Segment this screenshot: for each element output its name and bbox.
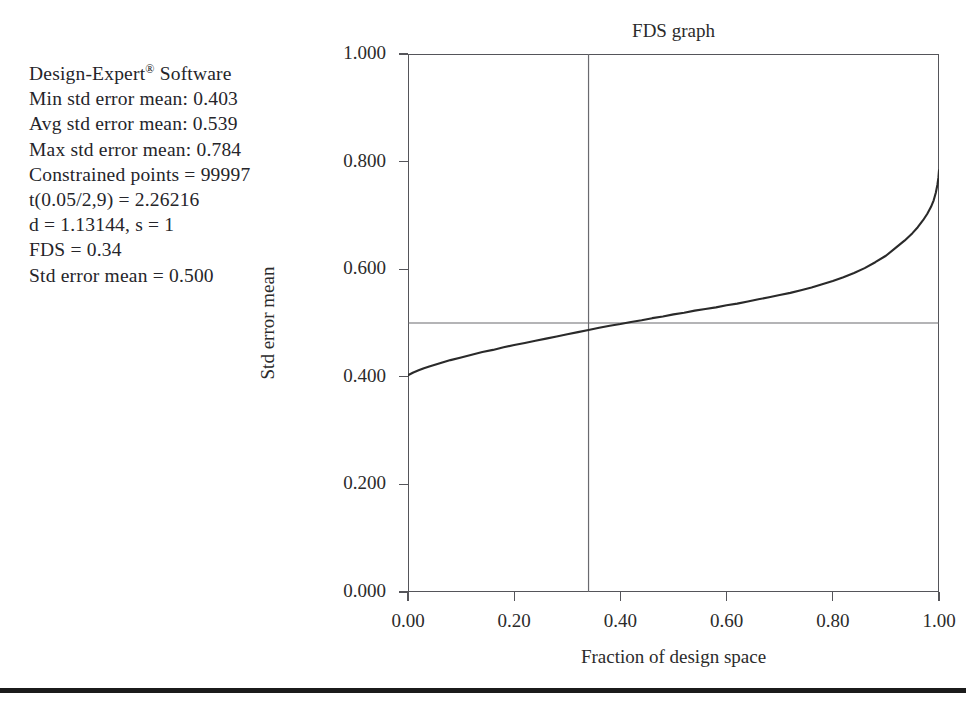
- x-tick-mark-1: [514, 592, 515, 601]
- x-tick-mark-0: [407, 592, 408, 601]
- fds-chart: FDS graph Std error mean Fraction of des…: [0, 0, 966, 690]
- x-tick-label-0: 0.00: [363, 610, 453, 632]
- y-tick-label-4: 0.800: [298, 150, 386, 172]
- series-line-0: [408, 170, 939, 375]
- y-tick-label-1: 0.200: [298, 472, 386, 494]
- footer-rule: [0, 688, 966, 693]
- x-tick-mark-3: [726, 592, 727, 601]
- y-tick-label-2: 0.400: [298, 365, 386, 387]
- x-tick-label-4: 0.80: [788, 610, 878, 632]
- y-tick-mark-4: [399, 161, 408, 162]
- y-tick-label-3: 0.600: [298, 257, 386, 279]
- reference-lines-group: [408, 54, 939, 592]
- y-axis-title: Std error mean: [257, 267, 279, 380]
- x-tick-label-5: 1.00: [894, 610, 966, 632]
- x-tick-label-1: 0.20: [469, 610, 559, 632]
- x-tick-mark-2: [620, 592, 621, 601]
- x-tick-label-2: 0.40: [575, 610, 665, 632]
- y-tick-mark-5: [399, 53, 408, 54]
- chart-title: FDS graph: [408, 20, 939, 42]
- y-tick-mark-2: [399, 376, 408, 377]
- x-tick-label-3: 0.60: [682, 610, 772, 632]
- x-tick-mark-4: [832, 592, 833, 601]
- x-tick-mark-5: [938, 592, 939, 601]
- y-tick-mark-1: [399, 484, 408, 485]
- y-tick-label-5: 1.000: [298, 42, 386, 64]
- y-tick-mark-3: [399, 269, 408, 270]
- y-tick-label-0: 0.000: [298, 580, 386, 602]
- data-series-group: [408, 170, 939, 375]
- x-axis-title: Fraction of design space: [408, 646, 939, 668]
- plot-canvas: [408, 54, 939, 592]
